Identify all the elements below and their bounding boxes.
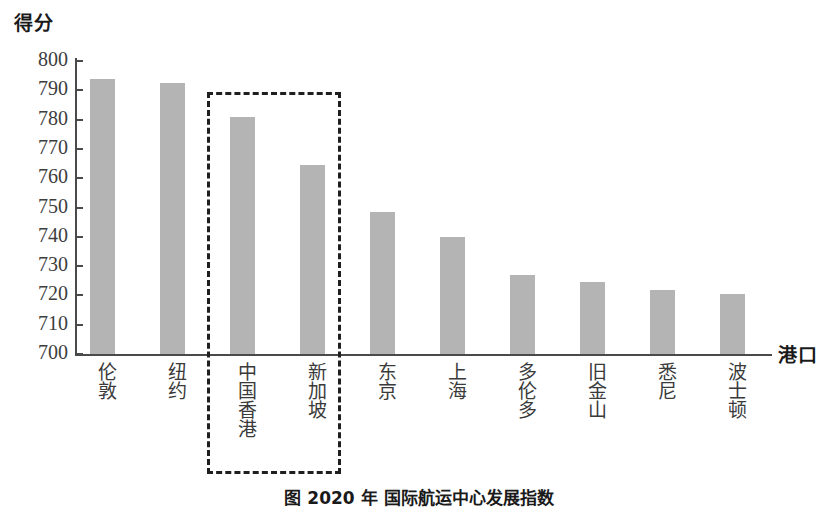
y-axis-label: 700 (8, 342, 68, 362)
x-axis-category-label: 悉尼 (649, 362, 675, 400)
bar (440, 237, 465, 354)
y-axis-tick (75, 207, 83, 209)
y-axis-label: 770 (8, 137, 68, 157)
y-axis-label: 780 (8, 108, 68, 128)
y-axis-tick (75, 177, 83, 179)
bar (650, 290, 675, 354)
y-axis-label: 760 (8, 166, 68, 186)
y-axis-tick (75, 60, 83, 62)
bar (160, 83, 185, 354)
y-axis-tick (75, 353, 83, 355)
y-axis-tick (75, 236, 83, 238)
y-axis-tick (75, 324, 83, 326)
y-axis-label: 720 (8, 283, 68, 303)
y-axis-tick (75, 294, 83, 296)
x-axis-category-label: 波士顿 (719, 362, 745, 419)
figure-caption: 图 2020 年 国际航运中心发展指数 (0, 484, 838, 509)
x-axis-category-label: 多伦多 (509, 362, 535, 419)
x-axis-category-label: 旧金山 (579, 362, 605, 419)
x-axis-line (75, 354, 772, 356)
y-axis-tick (75, 148, 83, 150)
x-axis-category-label: 东京 (369, 362, 395, 400)
y-axis-tick (75, 119, 83, 121)
highlight-box (207, 92, 341, 474)
y-axis-label: 790 (8, 78, 68, 98)
y-axis-tick (75, 89, 83, 91)
x-axis-category-label: 纽约 (159, 362, 185, 400)
bar (720, 294, 745, 354)
x-axis-category-label: 上海 (439, 362, 465, 400)
bar (580, 282, 605, 354)
y-axis-label: 750 (8, 196, 68, 216)
y-axis-label: 730 (8, 254, 68, 274)
bar (370, 212, 395, 354)
x-axis-category-label: 伦敦 (89, 362, 115, 400)
y-axis-label: 800 (8, 49, 68, 69)
y-axis-label: 740 (8, 225, 68, 245)
y-axis-tick (75, 265, 83, 267)
bar (510, 275, 535, 354)
y-axis-label: 710 (8, 313, 68, 333)
bar (90, 79, 115, 354)
